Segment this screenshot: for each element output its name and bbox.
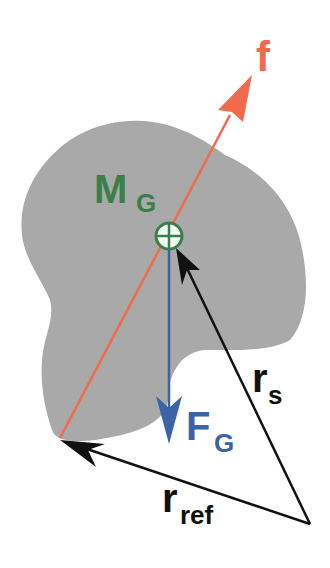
mass-label-main: M — [94, 167, 127, 211]
rref-label-sub: ref — [180, 500, 214, 530]
gravity-label-sub: G — [214, 428, 234, 458]
force-f-label: f — [256, 33, 271, 80]
force-f-arrowhead — [218, 75, 252, 122]
diagram-canvas: f M G F G r s r ref — [0, 0, 330, 568]
rs-label: r s — [252, 356, 282, 410]
center-of-mass-marker — [156, 223, 182, 249]
gravity-label-main: F — [186, 404, 210, 448]
diagram-svg: f M G F G r s r ref — [0, 0, 330, 568]
rs-label-main: r — [252, 356, 268, 400]
rref-label-main: r — [162, 476, 178, 520]
rs-label-sub: s — [268, 380, 282, 410]
gravity-label: F G — [186, 404, 234, 458]
mass-label-sub: G — [136, 188, 156, 218]
